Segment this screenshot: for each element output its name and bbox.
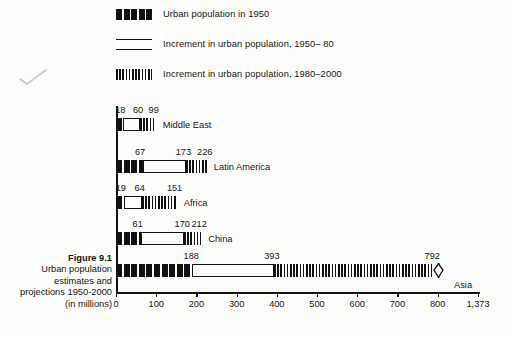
value-label: 792 (425, 251, 440, 261)
segment-increment-1950-80 (141, 232, 185, 245)
value-label: 226 (197, 147, 212, 157)
x-tick (156, 292, 157, 297)
caption-line: projections 1950-2000 (0, 287, 112, 298)
segment-increment-1950-80 (124, 196, 142, 209)
value-label: 64 (135, 183, 145, 193)
value-label: 18 (115, 105, 125, 115)
segment-increment-1980-2000 (184, 232, 201, 245)
legend-item-label: Increment in urban population, 1980–2000 (163, 69, 342, 79)
segment-pop-1950 (116, 232, 141, 245)
x-tick (478, 292, 479, 297)
figure-9-1: Urban population in 1950Increment in urb… (0, 0, 511, 339)
segment-pop-1950 (116, 264, 192, 277)
caption-line: estimates and (0, 276, 112, 287)
category-label: Latin America (214, 162, 270, 172)
value-label: 61 (133, 219, 143, 229)
bar-china (116, 232, 201, 245)
solid-blocks-swatch (116, 9, 152, 20)
value-label: 19 (116, 183, 126, 193)
x-tick (397, 292, 398, 297)
figure-caption: Figure 9.1Urban populationestimates andp… (0, 253, 112, 310)
x-tick-label: 300 (229, 299, 244, 309)
legend-item-label: Urban population in 1950 (163, 9, 269, 19)
pencil-check-icon (18, 68, 48, 86)
x-tick (196, 292, 197, 297)
caption-line: Urban population (0, 264, 112, 275)
value-label: 393 (264, 251, 279, 261)
x-tick-label: 400 (269, 299, 284, 309)
category-label: Middle East (163, 120, 212, 130)
value-label: 170 (175, 219, 190, 229)
value-label: 151 (167, 183, 182, 193)
x-tick-label: 700 (390, 299, 405, 309)
x-axis-line (116, 292, 480, 294)
legend-item-label: Increment in urban population, 1950– 80 (163, 39, 334, 49)
legend-item-inc802000: Increment in urban population, 1980–2000 (116, 66, 342, 82)
x-tick-label: 600 (350, 299, 365, 309)
x-tick (438, 292, 439, 297)
bar-africa (116, 196, 177, 209)
category-label: Africa (184, 198, 208, 208)
segment-increment-1980-2000 (274, 264, 434, 277)
bar-latin-america (116, 160, 207, 173)
axis-break-icon (432, 263, 445, 278)
value-label: 173 (176, 147, 191, 157)
x-tick (237, 292, 238, 297)
value-label: 67 (135, 147, 145, 157)
x-tick (317, 292, 318, 297)
x-tick-label: 500 (309, 299, 324, 309)
segment-increment-1950-80 (123, 118, 140, 131)
x-tick-label: 800 (430, 299, 445, 309)
x-tick-label: 200 (189, 299, 204, 309)
segment-increment-1980-2000 (142, 196, 177, 209)
x-tick-label: 1,373 (467, 299, 490, 309)
legend-item-inc5080: Increment in urban population, 1950– 80 (116, 36, 334, 52)
x-tick-label: 100 (149, 299, 164, 309)
hollow-bar-swatch (116, 39, 152, 50)
x-tick (116, 292, 117, 297)
figure-number: Figure 9.1 (0, 253, 112, 264)
value-label: 99 (149, 105, 159, 115)
segment-increment-1980-2000 (186, 160, 207, 173)
segment-pop-1950 (116, 118, 123, 131)
segment-increment-1950-80 (192, 264, 274, 277)
x-tick (357, 292, 358, 297)
segment-increment-1950-80 (143, 160, 186, 173)
value-label: 60 (133, 105, 143, 115)
segment-pop-1950 (116, 160, 143, 173)
segment-increment-1980-2000 (140, 118, 156, 131)
category-label: China (208, 234, 232, 244)
x-tick-label: 0 (113, 299, 118, 309)
segment-pop-1950 (116, 196, 124, 209)
bar-asia (116, 264, 434, 277)
category-label: Asia (454, 280, 472, 290)
value-label: 212 (191, 219, 206, 229)
x-tick (277, 292, 278, 297)
bar-middle-east (116, 118, 156, 131)
legend-item-pop1950: Urban population in 1950 (116, 6, 269, 22)
hatched-bar-swatch (116, 69, 152, 80)
value-label: 188 (184, 251, 199, 261)
caption-line: (in millions) (0, 299, 112, 310)
